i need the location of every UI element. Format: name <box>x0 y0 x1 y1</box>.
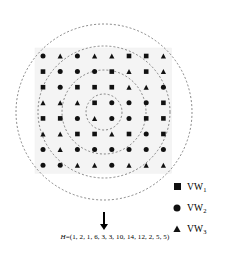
legend-label-vw3: VW3 <box>184 224 207 234</box>
marker-circle <box>58 69 63 74</box>
marker-square <box>144 69 149 74</box>
marker-square <box>161 116 166 121</box>
marker-square <box>75 132 80 137</box>
legend-label-vw1: VW1 <box>184 182 207 192</box>
marker-circle <box>75 69 80 74</box>
marker-square <box>127 54 132 59</box>
marker-circle <box>144 147 149 152</box>
marker-square <box>41 85 46 90</box>
marker-circle <box>41 54 46 59</box>
marker-square <box>161 132 166 137</box>
marker-square <box>127 132 132 137</box>
marker-circle <box>41 147 46 152</box>
marker-square <box>75 85 80 90</box>
marker-square <box>144 116 149 121</box>
marker-circle <box>127 100 132 105</box>
marker-circle <box>109 100 114 105</box>
marker-circle <box>41 163 46 168</box>
formula-body: =(1, 2, 1, 6, 3, 3, 10, 14, 12, 2, 5, 5) <box>66 233 170 241</box>
marker-square <box>110 85 115 90</box>
circle-icon <box>170 204 184 212</box>
marker-circle <box>75 54 80 59</box>
marker-circle <box>127 116 132 121</box>
legend-item-vw2: VW2 <box>170 197 228 218</box>
marker-square <box>58 116 63 121</box>
marker-circle <box>161 147 166 152</box>
marker-circle <box>92 147 97 152</box>
marker-circle <box>92 69 97 74</box>
marker-circle <box>58 85 63 90</box>
marker-square <box>92 132 97 137</box>
marker-circle <box>109 147 114 152</box>
marker-circle <box>144 132 149 137</box>
marker-square <box>161 101 166 106</box>
figure-container: VW1 VW2 VW3 H=(1, 2, 1, 6, 3, 3, 10, 14,… <box>0 0 230 254</box>
legend: VW1 VW2 VW3 <box>170 176 228 239</box>
legend-label-vw2: VW2 <box>184 203 207 213</box>
marker-circle <box>127 147 132 152</box>
arrow-head <box>100 224 108 230</box>
histogram-formula: H=(1, 2, 1, 6, 3, 3, 10, 14, 12, 2, 5, 5… <box>0 233 230 241</box>
marker-square <box>144 54 149 59</box>
marker-circle <box>75 147 80 152</box>
square-icon <box>170 183 184 190</box>
marker-square <box>92 85 97 90</box>
marker-square <box>92 101 97 106</box>
marker-circle <box>161 85 166 90</box>
marker-circle <box>58 163 63 168</box>
marker-square <box>41 69 46 74</box>
triangle-icon <box>170 225 184 233</box>
legend-item-vw1: VW1 <box>170 176 228 197</box>
marker-square <box>110 69 115 74</box>
marker-circle <box>75 116 80 121</box>
marker-circle <box>109 163 114 168</box>
down-arrow-icon <box>100 212 108 230</box>
marker-circle <box>144 100 149 105</box>
marker-square <box>41 116 46 121</box>
marker-circle <box>109 116 114 121</box>
